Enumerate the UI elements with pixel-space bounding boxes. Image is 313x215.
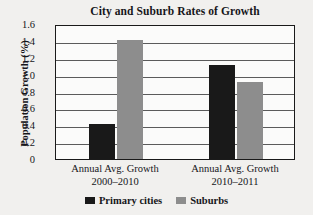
x-label-line-1: Annual Avg. Growth xyxy=(175,162,295,175)
bars-layer xyxy=(56,26,294,159)
y-axis-tick-label: 1.0 xyxy=(0,71,35,82)
y-axis-tick-label: 0.8 xyxy=(0,88,35,99)
legend-item-suburbs[interactable]: Suburbs xyxy=(176,195,228,206)
chart-title: City and Suburb Rates of Growth xyxy=(55,5,295,17)
bar-primary-cities-group-1 xyxy=(89,124,115,159)
y-axis-tick-label: 0.6 xyxy=(0,104,35,115)
x-label-line-2: 2000–2010 xyxy=(55,175,175,188)
x-label-line-2: 2010–2011 xyxy=(175,175,295,188)
x-axis-category-labels: Annual Avg. Growth2000–2010Annual Avg. G… xyxy=(55,162,295,194)
legend-label: Suburbs xyxy=(190,195,228,206)
x-axis-category-label: Annual Avg. Growth2000–2010 xyxy=(55,162,175,188)
y-axis-tick-label: 0.4 xyxy=(0,121,35,132)
plot-area xyxy=(55,25,295,160)
legend-item-primary-cities[interactable]: Primary cities xyxy=(85,195,162,206)
x-label-line-1: Annual Avg. Growth xyxy=(55,162,175,175)
y-axis-tick-label: 0 xyxy=(0,155,35,166)
bar-primary-cities-group-2 xyxy=(209,65,235,160)
bar-chart: City and Suburb Rates of Growth Populati… xyxy=(0,0,313,215)
chart-legend: Primary citiesSuburbs xyxy=(0,195,313,206)
x-axis-category-label: Annual Avg. Growth2010–2011 xyxy=(175,162,295,188)
y-axis-tick-label: 1.6 xyxy=(0,20,35,31)
legend-swatch-icon xyxy=(176,197,186,204)
y-axis-tick-label: 1.4 xyxy=(0,37,35,48)
legend-label: Primary cities xyxy=(99,195,162,206)
bar-suburbs-group-1 xyxy=(117,40,143,159)
legend-swatch-icon xyxy=(85,197,95,204)
y-axis-tick-label: 0.2 xyxy=(0,138,35,149)
bar-suburbs-group-2 xyxy=(237,82,263,159)
y-axis-tick-label: 1.2 xyxy=(0,54,35,65)
